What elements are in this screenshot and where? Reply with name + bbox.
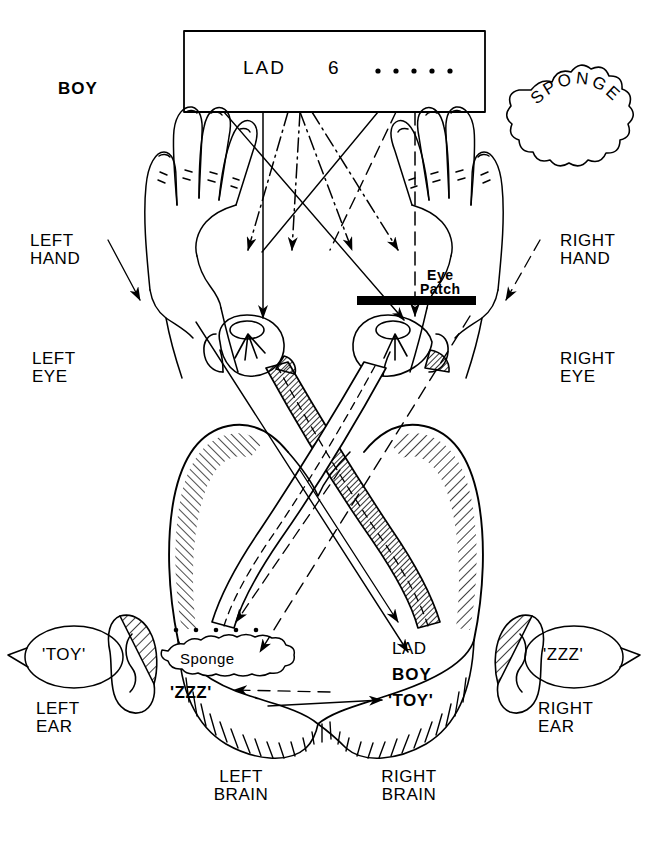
figure-canvas: LAD 6 BOY LEFTHAND RIGHTHAND SPONGE LEFT… xyxy=(0,0,648,842)
left-ear-bubble-text: 'TOY' xyxy=(42,646,86,664)
left-brain-object-label: Sponge xyxy=(180,651,235,666)
right-ear-label: RIGHTEAR xyxy=(538,700,593,735)
left-ear-label: LEFTEAR xyxy=(36,700,80,735)
right-brain-label: RIGHTBRAIN xyxy=(354,768,464,803)
right-hand-object-label: SPONGE xyxy=(527,68,626,108)
right-brain-word-label: LAD xyxy=(392,640,427,658)
left-eye-label: LEFTEYE xyxy=(32,350,76,385)
eye-patch-label: EyePatch xyxy=(420,268,461,297)
left-brain-label: LEFTBRAIN xyxy=(186,768,296,803)
left-brain-sound-label: 'ZZZ' xyxy=(170,684,212,702)
svg-text:SPONGE: SPONGE xyxy=(527,68,626,108)
right-eye-label: RIGHTEYE xyxy=(560,350,615,385)
right-brain-sound-label: 'TOY' xyxy=(388,692,433,710)
right-ear-bubble-text: 'ZZZ' xyxy=(543,646,583,664)
right-brain-object-label: BOY xyxy=(392,666,432,684)
